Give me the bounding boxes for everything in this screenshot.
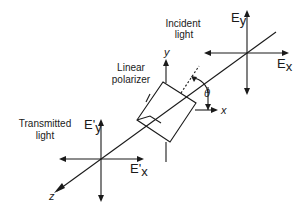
transmitted-ey-label: E'y [84,117,102,135]
polarizer-x-label: x [220,104,227,116]
polarizer-label-2: polarizer [112,74,151,85]
polarizer-y-arrowhead [163,59,169,66]
incident-ex-label: Ex [277,56,293,74]
z-arrowhead [54,183,65,193]
transmitted-ex-label: E'x [130,161,148,179]
incident-light-label: Incident [165,18,200,29]
incident-field-axes: Ey Ex [204,10,293,95]
z-axis-label: z [48,190,55,202]
transmitted-light-label: Transmitted [19,118,71,129]
incident-ey-down-arrow [244,88,250,95]
theta-label: θ [204,87,210,99]
transmitted-field-axes: E'y E'x [59,117,148,202]
theta-ref-arrowhead [205,104,211,110]
incident-ex-left-arrow [204,50,211,56]
transmission-axis-dashed [181,66,199,93]
transmitted-light-label-2: light [36,130,55,141]
incident-light-label-2: light [175,29,194,40]
transmitted-ex-left-arrow [59,156,66,162]
incident-ey-label: Ey [231,10,247,28]
polarizer-leader-line [146,94,150,102]
polarizer-label: Linear [117,62,145,73]
polarizer-diagram: z Ey Ex Incident light Linear polarizer … [0,0,303,210]
polarizer-y-label: y [163,46,171,58]
polarizer-x-arrowhead [211,107,218,113]
transmitted-ey-down-arrow [98,195,104,202]
